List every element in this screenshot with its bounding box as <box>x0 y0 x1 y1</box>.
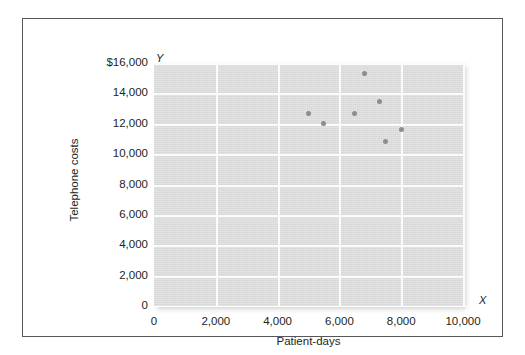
gridline-horizontal <box>154 215 463 217</box>
y-axis-title: Telephone costs <box>69 138 81 221</box>
gridline-horizontal <box>154 185 463 187</box>
y-tick-label: 0 <box>142 300 148 312</box>
data-point <box>377 99 382 104</box>
x-axis-title: Patient-days <box>154 336 463 348</box>
figure-frame: 02,0004,0006,0008,00010,00012,00014,000$… <box>22 18 503 337</box>
gridline-horizontal <box>154 63 463 65</box>
x-axis-line <box>151 306 469 307</box>
gridline-horizontal <box>154 93 463 95</box>
plot-area <box>154 63 463 306</box>
y-tick-label: $16,000 <box>106 57 148 69</box>
gridline-vertical <box>339 63 341 306</box>
gridline-horizontal <box>154 154 463 156</box>
x-axis-letter-marker: X <box>479 295 486 306</box>
gridline-horizontal <box>154 245 463 247</box>
data-point <box>352 111 357 116</box>
y-tick-label: 12,000 <box>113 118 148 130</box>
y-tick-label: 6,000 <box>119 209 148 221</box>
gridline-vertical <box>463 63 465 306</box>
gridline-vertical <box>278 63 280 306</box>
y-tick-label: 8,000 <box>119 179 148 191</box>
scatter-plot-figure: 02,0004,0006,0008,00010,00012,00014,000$… <box>0 0 525 355</box>
y-tick-label: 4,000 <box>119 239 148 251</box>
data-point <box>306 111 311 116</box>
x-tick-label: 10,000 <box>445 316 480 328</box>
x-tick-label: 2,000 <box>201 316 230 328</box>
x-tick-label: 0 <box>151 316 157 328</box>
y-tick-label: 10,000 <box>113 148 148 160</box>
x-tick-label: 6,000 <box>325 316 354 328</box>
gridline-vertical <box>216 63 218 306</box>
gridline-horizontal <box>154 276 463 278</box>
y-axis-line <box>153 59 154 308</box>
x-axis-tick-labels: 02,0004,0006,0008,00010,000 <box>23 316 525 336</box>
gridline-horizontal <box>154 124 463 126</box>
y-tick-label: 2,000 <box>119 270 148 282</box>
y-axis-letter-marker: Y <box>156 53 163 64</box>
data-point <box>383 139 388 144</box>
y-tick-label: 14,000 <box>113 87 148 99</box>
gridline-vertical <box>401 63 403 306</box>
x-tick-label: 8,000 <box>387 316 416 328</box>
x-tick-label: 4,000 <box>263 316 292 328</box>
data-point <box>362 71 367 76</box>
